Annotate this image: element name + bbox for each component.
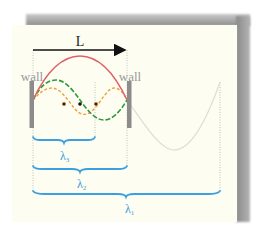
node-dot bbox=[62, 102, 66, 106]
lambda3-label: λ3 bbox=[60, 149, 70, 164]
lambda2-label: λ2 bbox=[77, 177, 87, 192]
fundamental-wave bbox=[33, 56, 127, 100]
standing-waves-diagram: L wall wall λ3 λ2 λ1 bbox=[0, 0, 263, 232]
node-dots bbox=[62, 102, 98, 106]
left-wall bbox=[30, 81, 35, 128]
node-dot bbox=[94, 102, 98, 106]
right-wall bbox=[127, 81, 132, 128]
fundamental-continuation-curve bbox=[127, 82, 220, 150]
wavelength-braces bbox=[33, 137, 220, 197]
brace-lambda3 bbox=[33, 137, 95, 143]
brace-lambda1 bbox=[33, 191, 220, 197]
diagram-canvas: L wall wall λ3 λ2 λ1 bbox=[0, 0, 263, 232]
lambda1-label: λ1 bbox=[125, 202, 135, 217]
brace-lambda2 bbox=[33, 166, 127, 172]
node-dot bbox=[78, 102, 82, 106]
length-label: L bbox=[76, 34, 85, 49]
